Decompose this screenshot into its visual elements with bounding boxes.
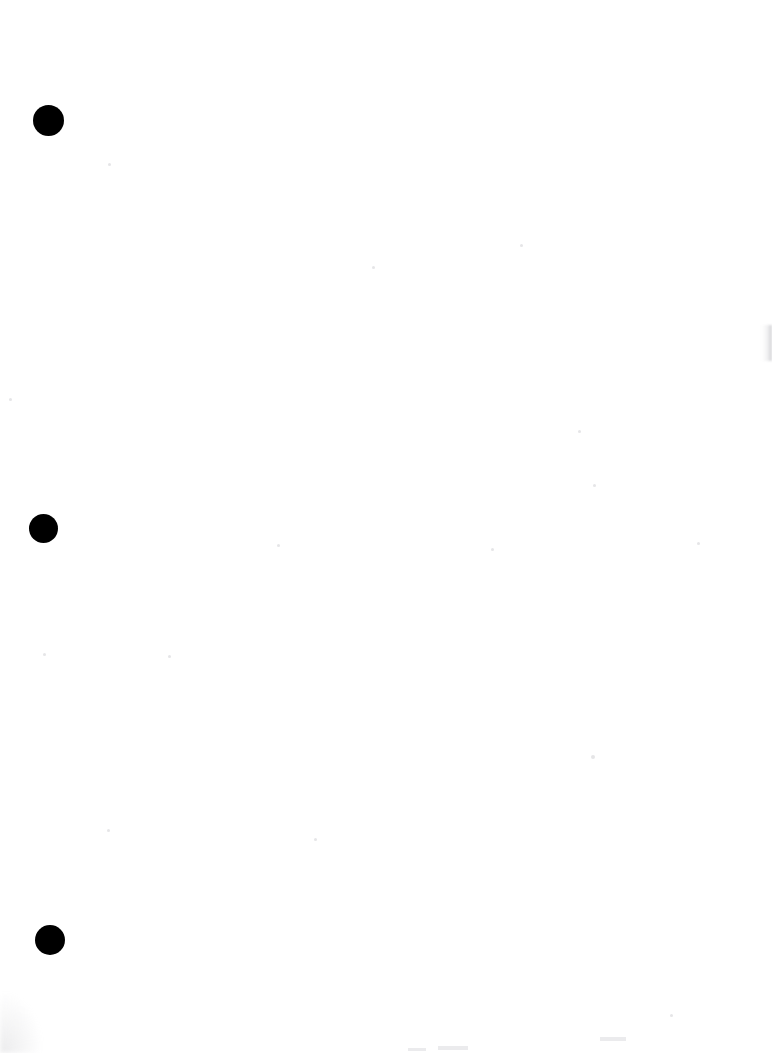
speckle (578, 430, 581, 433)
speckle-streak (408, 1048, 426, 1051)
speckle (520, 244, 523, 247)
speckle (107, 829, 110, 832)
bullet-mark-1 (33, 105, 64, 136)
speckle (670, 1014, 673, 1017)
speckle (593, 484, 596, 487)
speckle (314, 838, 317, 841)
speckle (372, 266, 375, 269)
speckle-streak (600, 1037, 626, 1041)
right-edge-smudge (762, 325, 772, 361)
speckle (168, 655, 171, 658)
bullet-mark-2 (29, 514, 58, 543)
speckle (9, 398, 12, 401)
speckle-streak (438, 1046, 468, 1050)
speckle (697, 542, 700, 545)
bullet-mark-3 (35, 925, 65, 955)
scanned-page (0, 0, 772, 1053)
speckle (591, 755, 595, 759)
speckle (277, 544, 280, 547)
speckle (491, 548, 494, 551)
speckle (108, 163, 111, 166)
bottom-left-smudge (0, 993, 42, 1053)
speckle (43, 653, 46, 656)
